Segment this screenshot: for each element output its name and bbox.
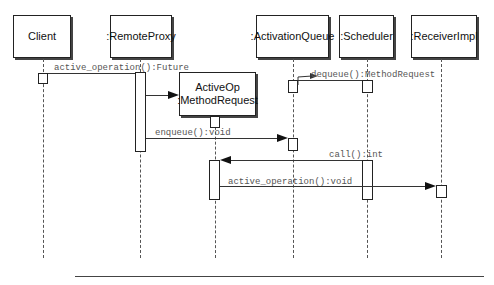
message-line-enqueue [146, 138, 277, 139]
message-line-call [231, 160, 362, 161]
message-label-active-operation-void: active_operation():void [228, 177, 352, 187]
bottom-divider [75, 276, 484, 277]
message-label-dequeue: dequeue():MethodRequest [311, 70, 435, 80]
arrowhead-call [220, 156, 231, 164]
arrowhead-enqueue [277, 134, 288, 142]
message-label-enqueue: enqueue():void [155, 128, 231, 138]
dequeue-return-hook [0, 0, 494, 285]
arrowhead-active-operation-void [425, 182, 436, 190]
message-label-call: call():int [329, 150, 383, 160]
